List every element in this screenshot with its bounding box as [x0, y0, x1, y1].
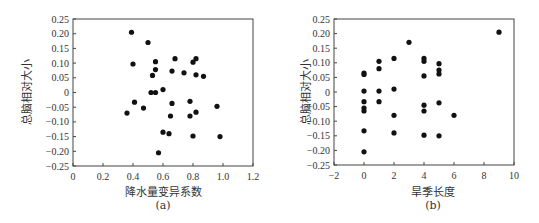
y-axis-label-a: 总脑相对大小	[18, 52, 34, 132]
x-tick-label: −2	[329, 170, 340, 181]
data-point	[391, 56, 396, 61]
data-point	[436, 71, 441, 76]
data-point	[421, 103, 426, 108]
plot-frame	[334, 19, 514, 165]
y-tick-label: −0.25	[307, 160, 330, 171]
data-point	[391, 113, 396, 118]
data-point	[166, 131, 171, 136]
data-point	[187, 113, 192, 118]
x-tick-label: 1.2	[247, 171, 260, 182]
data-point	[193, 110, 198, 115]
y-tick-label: −0.05	[46, 102, 69, 113]
data-point	[145, 40, 150, 45]
data-point	[153, 59, 158, 64]
data-point	[391, 130, 396, 135]
data-point	[436, 133, 441, 138]
data-point	[361, 72, 366, 77]
y-tick-label: −0.20	[307, 145, 330, 156]
x-tick-label: 0	[362, 170, 367, 181]
data-point	[153, 90, 158, 95]
y-tick-label: 0.15	[52, 43, 70, 54]
y-tick-label: 0.25	[52, 14, 70, 25]
y-tick-label: 0	[64, 87, 69, 98]
data-point	[391, 86, 396, 91]
data-point	[406, 40, 411, 45]
x-tick-label: 2	[392, 170, 397, 181]
data-point	[187, 99, 192, 104]
y-tick-label: 0	[325, 87, 330, 98]
data-point	[169, 68, 174, 73]
data-point	[361, 108, 366, 113]
data-point	[376, 99, 381, 104]
data-point	[160, 130, 165, 135]
data-point	[193, 72, 198, 77]
y-tick-label: −0.20	[46, 146, 69, 157]
data-point	[124, 110, 129, 115]
data-point	[129, 30, 134, 35]
x-axis-label-a: 降水量变异系数	[113, 183, 213, 199]
scatter-plot-a: 0.250.200.150.100.050−0.05−0.10−0.15−0.2…	[0, 0, 270, 223]
data-point	[421, 108, 426, 113]
y-tick-label: 0.20	[313, 28, 331, 39]
x-axis-label-b: 旱季长度	[393, 183, 473, 199]
data-point	[150, 73, 155, 78]
y-tick-label: 0.25	[313, 14, 331, 25]
x-tick-label: 0	[71, 171, 76, 182]
data-point	[148, 90, 153, 95]
y-tick-label: 0.20	[52, 28, 70, 39]
data-point	[201, 74, 206, 79]
data-point	[376, 59, 381, 64]
y-tick-label: 0.05	[313, 72, 331, 83]
data-point	[361, 99, 366, 104]
data-point	[214, 104, 219, 109]
data-point	[172, 56, 177, 61]
x-tick-label: 0.6	[157, 171, 170, 182]
x-tick-label: 1.0	[217, 171, 230, 182]
data-point	[361, 149, 366, 154]
data-point	[436, 61, 441, 66]
data-point	[421, 133, 426, 138]
data-point	[361, 89, 366, 94]
x-tick-label: 6	[452, 170, 457, 181]
caption-a: (a)	[143, 199, 183, 212]
data-point	[160, 87, 165, 92]
y-axis-label-b: 总脑相对大小	[297, 52, 313, 132]
data-point	[190, 133, 195, 138]
data-point	[141, 105, 146, 110]
x-tick-label: 0.2	[97, 171, 110, 182]
y-tick-label: −0.15	[46, 131, 69, 142]
data-point	[181, 70, 186, 75]
y-tick-label: 0.10	[313, 57, 331, 68]
data-point	[421, 73, 426, 78]
data-point	[130, 61, 135, 66]
x-tick-label: 0.8	[187, 171, 200, 182]
x-tick-label: 0.4	[127, 171, 140, 182]
y-tick-label: 0.05	[52, 72, 70, 83]
data-point	[217, 134, 222, 139]
data-point	[190, 60, 195, 65]
y-tick-label: 0.10	[52, 58, 70, 69]
data-point	[153, 67, 158, 72]
x-tick-label: 4	[422, 170, 427, 181]
scatter-plot-b: 0.250.200.150.100.050−0.05−0.10−0.15−0.2…	[270, 0, 539, 223]
data-point	[376, 66, 381, 71]
x-tick-label: 10	[509, 170, 519, 181]
data-point	[156, 150, 161, 155]
data-point	[361, 128, 366, 133]
data-point	[496, 30, 501, 35]
data-point	[421, 59, 426, 64]
y-tick-label: −0.25	[46, 161, 69, 172]
plot-frame	[73, 19, 253, 166]
data-point	[168, 113, 173, 118]
data-point	[451, 113, 456, 118]
data-point	[376, 89, 381, 94]
data-point	[436, 100, 441, 105]
y-tick-label: 0.15	[313, 43, 331, 54]
caption-b: (b)	[413, 199, 453, 212]
x-tick-label: 8	[482, 170, 487, 181]
data-point	[132, 100, 137, 105]
y-tick-label: −0.10	[46, 116, 69, 127]
data-point	[169, 101, 174, 106]
